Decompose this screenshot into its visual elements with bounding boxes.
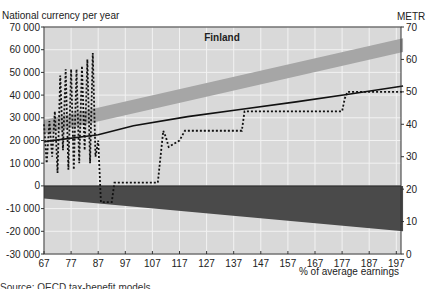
right-axis-ticks: 706050403020100 — [401, 22, 418, 260]
right-tick-label: 30 — [406, 151, 418, 162]
left-tick-label: 50 000 — [9, 67, 40, 78]
x-tick-label: 127 — [198, 258, 215, 269]
left-tick-label: 20 000 — [9, 135, 40, 146]
right-axis-label: METR — [397, 11, 425, 22]
chart-title: Finland — [204, 32, 240, 43]
x-axis-label: % of average earnings — [299, 266, 399, 277]
right-tick-label: 10 — [406, 216, 418, 227]
right-tick-label: 40 — [406, 119, 418, 130]
left-axis-ticks: 70 00060 00050 00040 00030 00020 00010 0… — [6, 22, 44, 260]
x-tick-label: 87 — [93, 258, 105, 269]
left-tick-label: 70 000 — [9, 22, 40, 33]
x-tick-label: 67 — [38, 258, 50, 269]
left-tick-label: -10 000 — [6, 203, 40, 214]
left-tick-label: 30 000 — [9, 112, 40, 123]
x-tick-label: 147 — [252, 258, 269, 269]
left-tick-label: -20 000 — [6, 226, 40, 237]
left-tick-label: 10 000 — [9, 158, 40, 169]
x-tick-label: 107 — [144, 258, 161, 269]
left-tick-label: 60 000 — [9, 44, 40, 55]
footer-source: Source: OECD tax-benefit models. — [0, 281, 153, 289]
x-tick-label: 137 — [225, 258, 242, 269]
left-axis-label: National currency per year — [2, 10, 120, 21]
right-tick-label: 60 — [406, 54, 418, 65]
right-tick-label: 50 — [406, 86, 418, 97]
left-tick-label: -30 000 — [6, 249, 40, 260]
right-tick-label: 0 — [406, 249, 412, 260]
chart: 70 00060 00050 00040 00030 00020 00010 0… — [0, 0, 429, 289]
right-tick-label: 20 — [406, 184, 418, 195]
x-tick-label: 117 — [172, 258, 188, 269]
left-tick-label: 0 — [34, 180, 40, 191]
x-tick-label: 157 — [280, 258, 297, 269]
x-tick-label: 77 — [66, 258, 78, 269]
left-tick-label: 40 000 — [9, 90, 40, 101]
right-tick-label: 70 — [406, 22, 418, 33]
x-tick-label: 97 — [120, 258, 132, 269]
